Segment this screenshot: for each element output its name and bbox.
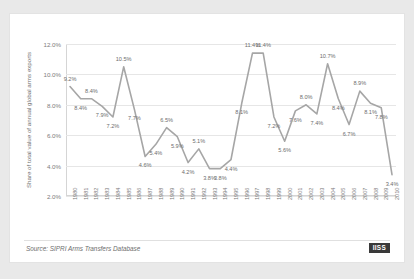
x-axis-tick-label: 1996 [244,188,250,200]
x-axis-tick-label: 1993 [212,188,218,200]
x-axis-tick-label: 1987 [147,188,153,200]
data-label: 8.1% [235,109,248,115]
x-axis-tick-label: 1983 [104,188,110,200]
data-label: 7.6% [289,117,302,123]
y-axis-tick-label: 6.0% [47,132,61,139]
x-axis-tick-label: 2007 [362,188,368,200]
data-label: 10.7% [320,53,336,59]
data-label: 8.4% [332,105,345,111]
data-label: 7.9% [96,112,109,118]
x-axis-tick-label: 2002 [308,188,314,200]
x-axis-tick-label: 1989 [169,188,175,200]
x-axis-tick-label: 1985 [126,188,132,200]
y-axis-tick-label: 4.0% [47,162,61,169]
x-axis-tick-label: 2005 [340,188,346,200]
x-axis-tick-label: 2009 [383,188,389,200]
chart-figure: Share of total value of annual global ar… [9,13,405,263]
data-label: 7.7% [128,115,141,121]
x-axis-tick-label: 1981 [83,188,89,200]
plot-area: 2.0%4.0%6.0%8.0%10.0%12.0% 9.2%8.4%8.4%7… [66,44,396,196]
x-axis-tick-label: 1984 [115,188,121,200]
x-axis-tick-label: 1980 [72,188,78,200]
x-axis-tick-label: 2008 [373,188,379,200]
source-note: Source: SIPRI Arms Transfers Database [26,245,140,252]
x-axis-tick-label: 1991 [190,188,196,200]
x-axis-ticks: 1980198119821983198419851986198719881989… [66,198,396,242]
x-axis-tick-label: 2004 [330,188,336,200]
x-axis-tick-label: 2010 [394,188,400,200]
x-axis-tick-label: 1990 [179,188,185,200]
data-label: 8.0% [300,94,313,100]
y-axis-tick-label: 10.0% [43,71,61,78]
iiss-logo: IISS [369,243,390,253]
data-label: 7.4% [310,120,323,126]
data-label: 5.6% [278,147,291,153]
data-label: 7.2% [107,123,120,129]
x-axis-tick-label: 1982 [93,188,99,200]
y-axis-title: Share of total value of annual global ar… [24,44,34,196]
footer-divider [24,240,390,241]
data-label: 7.8% [375,114,388,120]
data-label: 4.2% [182,169,195,175]
data-label: 8.9% [353,80,366,86]
data-label: 10.5% [116,56,132,62]
x-axis-tick-label: 1986 [136,188,142,200]
data-label: 5.9% [171,143,184,149]
data-label: 5.1% [192,138,205,144]
data-label: 6.5% [160,117,173,123]
data-label: 3.8% [214,175,227,181]
y-axis-tick-label: 12.0% [43,41,61,48]
data-label: 8.4% [74,105,87,111]
x-axis-tick-label: 1997 [254,188,260,200]
x-axis-tick-label: 1998 [265,188,271,200]
x-axis-tick-label: 1994 [222,188,228,200]
x-axis-tick-label: 2001 [297,188,303,200]
data-label: 4.6% [139,162,152,168]
data-label: 5.4% [149,150,162,156]
x-axis-tick-label: 1992 [201,188,207,200]
y-axis-tick-label: 2.0% [47,193,61,200]
x-axis-tick-label: 2000 [287,188,293,200]
data-label: 7.2% [268,123,281,129]
x-axis-tick-label: 1995 [233,188,239,200]
data-label: 3.4% [386,181,399,187]
data-label: 8.4% [85,88,98,94]
x-axis-tick-label: 2003 [319,188,325,200]
y-axis-tick-label: 8.0% [47,101,61,108]
x-axis-tick-label: 1999 [276,188,282,200]
series-line [66,44,396,196]
data-label: 11.4% [255,42,270,48]
data-label: 6.7% [343,131,356,137]
data-label: 9.2% [64,76,77,82]
x-axis-tick-label: 2006 [351,188,357,200]
data-label: 4.4% [225,166,238,172]
x-axis-tick-label: 1988 [158,188,164,200]
